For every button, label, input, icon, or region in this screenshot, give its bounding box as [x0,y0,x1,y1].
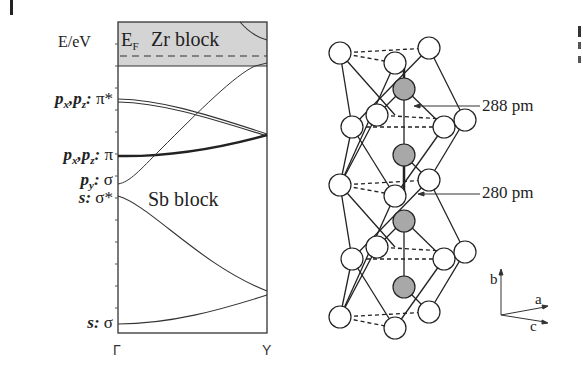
fermi-sub: F [133,40,139,52]
band-s-sigma-star [118,196,267,291]
band-py-sigma [118,63,267,184]
label-s-sigma: s: σ [87,314,113,331]
label-py-sigma: py: σ [81,171,113,188]
axis-c-label: c [530,319,537,334]
axis-b-label: b [490,272,498,287]
zr-block-label: Zr block [151,29,219,49]
cropped-caption-fragment [578,26,583,63]
distance-280: 280 pm [482,184,533,201]
label-pi-star: px,pz: π* [55,90,113,107]
fermi-e: E [121,29,133,50]
label-s-sigma-star: s: σ* [79,189,113,206]
label-pi: px,pz: π [63,146,113,163]
band-s-sigma [118,295,267,324]
band-pi [118,135,267,156]
kpoint-gamma: Γ [113,343,121,357]
plot-frame [118,22,267,333]
sb-block-label: Sb block [148,189,219,209]
fermi-level-label: EF [121,30,139,49]
kpoint-y: Y [262,343,271,357]
distance-288: 288 pm [482,97,533,114]
orbital-labels: px,pz: π* px,pz: π py: σ s: σ* s: σ [0,0,113,367]
axis-a-label: a [535,292,542,307]
